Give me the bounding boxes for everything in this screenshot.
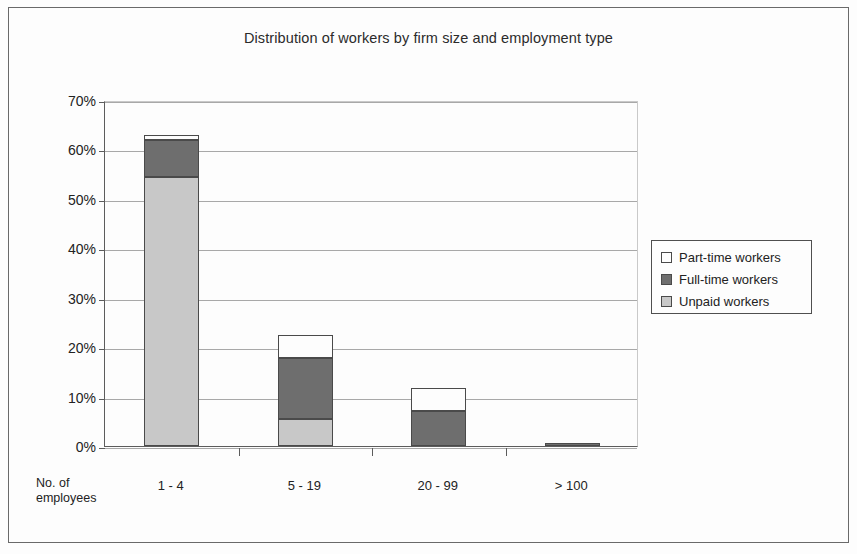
y-axis-tick [99, 151, 105, 152]
y-axis-tick [99, 399, 105, 400]
bar-segment [144, 140, 199, 177]
legend-item-label: Unpaid workers [679, 294, 769, 309]
y-axis-tick-label: 0% [36, 439, 96, 455]
y-axis-tick-label: 50% [36, 192, 96, 208]
y-axis-tick-label: 60% [36, 142, 96, 158]
y-axis-tick [99, 349, 105, 350]
x-axis-tick [239, 448, 240, 456]
bar-segment [278, 335, 333, 358]
x-axis-tick-label: 20 - 99 [418, 478, 458, 493]
legend-item: Part-time workers [661, 247, 811, 268]
bar-group [144, 100, 199, 446]
bar-segment [411, 411, 466, 446]
x-axis-labels: No. of employees 1 - 45 - 1920 - 99> 100 [0, 476, 857, 516]
y-axis-tick-label: 70% [36, 93, 96, 109]
legend-item: Unpaid workers [661, 291, 811, 312]
x-axis-title: No. of employees [36, 476, 96, 506]
gridline [105, 448, 637, 449]
legend-item-label: Full-time workers [679, 272, 778, 287]
x-axis-title-line2: employees [36, 491, 96, 506]
legend-item-label: Part-time workers [679, 250, 781, 265]
bar-segment [278, 419, 333, 446]
y-axis-tick-label: 40% [36, 241, 96, 257]
y-axis-labels: 0%10%20%30%40%50%60%70% [36, 101, 96, 447]
bar-segment [144, 135, 199, 140]
y-axis-tick-label: 10% [36, 390, 96, 406]
x-axis-tick [372, 448, 373, 456]
legend-item: Full-time workers [661, 269, 811, 290]
y-axis-tick [99, 300, 105, 301]
bar-segment [411, 388, 466, 412]
full-time-swatch-icon [661, 274, 672, 285]
x-axis-tick-label: 1 - 4 [158, 478, 184, 493]
y-axis-tick-label: 30% [36, 291, 96, 307]
chart-title: Distribution of workers by firm size and… [0, 30, 857, 46]
chart-screenshot: Distribution of workers by firm size and… [0, 0, 857, 554]
y-axis-tick [99, 448, 105, 449]
unpaid-swatch-icon [661, 296, 672, 307]
part-time-swatch-icon [661, 252, 672, 263]
x-axis-tick [506, 448, 507, 456]
plot-area [104, 101, 638, 447]
bar-segment [144, 177, 199, 446]
y-axis-tick-label: 20% [36, 340, 96, 356]
chart-legend: Part-time workersFull-time workersUnpaid… [651, 240, 812, 314]
bar-group [278, 100, 333, 446]
x-axis-tick-label: > 100 [555, 478, 588, 493]
y-axis-tick [99, 201, 105, 202]
bar-segment [278, 358, 333, 419]
bar-segment [545, 443, 600, 446]
y-axis-tick [99, 102, 105, 103]
bar-group [545, 100, 600, 446]
x-axis-title-line1: No. of [36, 476, 96, 491]
y-axis-tick [99, 250, 105, 251]
bar-group [411, 100, 466, 446]
x-axis-tick-label: 5 - 19 [288, 478, 321, 493]
